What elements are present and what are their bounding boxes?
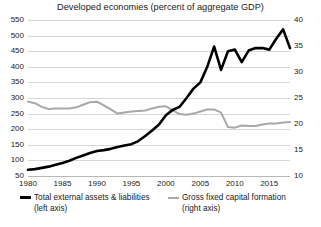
black-line-swatch-icon (20, 196, 31, 199)
legend-sublabel-left-axis: (left axis) (34, 204, 170, 215)
y-tick-left: 150 (0, 141, 24, 149)
series-lines (28, 20, 290, 176)
y-tick-right: 35 (294, 42, 320, 50)
legend-label-total-external-assets: Total external assets & liabilities (34, 193, 150, 202)
y-tick-right: 20 (294, 120, 320, 128)
chart-legend: Total external assets & liabilities (lef… (0, 193, 321, 227)
y-tick-left: 350 (0, 78, 24, 86)
y-tick-left: 450 (0, 47, 24, 55)
y-tick-right: 30 (294, 68, 320, 76)
y-tick-left: 300 (0, 94, 24, 102)
y-tick-left: 100 (0, 156, 24, 164)
y-tick-right: 10 (294, 172, 320, 180)
y-tick-left: 200 (0, 125, 24, 133)
y-tick-left: 500 (0, 32, 24, 40)
legend-item-total-external-assets: Total external assets & liabilities (lef… (20, 193, 170, 214)
y-tick-left: 250 (0, 110, 24, 118)
y-tick-right: 40 (294, 16, 320, 24)
chart-figure: Developed economies (percent of aggregat… (0, 0, 321, 227)
legend-label-gross-fixed-capital-formation: Gross fixed capital formation (182, 193, 286, 202)
chart-title: Developed economies (percent of aggregat… (0, 2, 321, 12)
x-tick: 2015 (249, 179, 289, 188)
y-tick-left: 550 (0, 16, 24, 24)
legend-sublabel-right-axis: (right axis) (182, 204, 318, 215)
y-tick-right: 15 (294, 146, 320, 154)
gray-line-swatch-icon (168, 197, 179, 199)
plot-area (28, 20, 290, 176)
legend-item-gross-fixed-capital-formation: Gross fixed capital formation (right axi… (168, 193, 318, 214)
gridline (28, 176, 290, 177)
y-tick-right: 25 (294, 94, 320, 102)
y-tick-left: 400 (0, 63, 24, 71)
line-total-external-assets-liabilities (28, 29, 290, 169)
